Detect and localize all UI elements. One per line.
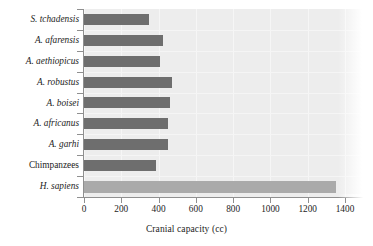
y-axis-label: A. garhi — [49, 139, 79, 149]
y-axis-label: A. afarensis — [35, 35, 79, 45]
x-axis-tick — [233, 198, 234, 203]
y-axis-tick — [77, 93, 83, 94]
y-axis-tick — [77, 197, 83, 198]
bar-row — [84, 113, 364, 134]
bar-a-afarensis — [84, 35, 163, 46]
bar-a-boisei — [84, 97, 170, 108]
y-axis-label: S. tchadensis — [30, 14, 79, 24]
y-axis-tick — [77, 113, 83, 114]
bar-a-aethiopicus — [84, 56, 160, 67]
bar-h-sapiens — [84, 181, 336, 193]
cranial-capacity-bar-chart: S. tchadensisA. afarensisA. aethiopicusA… — [0, 0, 373, 246]
x-axis-title: Cranial capacity (cc) — [0, 224, 373, 234]
bar-chimpanzees — [84, 160, 156, 171]
bar-a-robustus — [84, 77, 172, 88]
y-axis-label: Chimpanzees — [29, 160, 79, 170]
x-axis-tick — [270, 198, 271, 203]
bar-row — [84, 134, 364, 155]
y-axis-tick — [77, 30, 83, 31]
bar-a-garhi — [84, 139, 168, 150]
x-axis-tick — [308, 198, 309, 203]
x-axis-tick — [159, 198, 160, 203]
x-axis-tick — [84, 198, 85, 203]
y-axis-tick — [77, 176, 83, 177]
y-axis-tick — [77, 134, 83, 135]
x-axis-tick — [196, 198, 197, 203]
y-axis-label: A. robustus — [37, 77, 79, 87]
y-axis-label: A. boisei — [46, 98, 79, 108]
bar-row — [84, 93, 364, 114]
x-axis-line — [83, 197, 364, 198]
y-axis-label: A. africanus — [34, 118, 79, 128]
y-axis-tick — [77, 72, 83, 73]
bar-a-africanus — [84, 118, 168, 129]
y-axis-label: H. sapiens — [40, 181, 79, 191]
x-axis-tick-label: 800 — [213, 204, 253, 215]
x-axis-tick-label: 200 — [101, 204, 141, 215]
y-axis-tick — [77, 51, 83, 52]
x-axis-tick-label: 0 — [64, 204, 104, 215]
x-axis-edge-fade — [338, 194, 368, 202]
y-axis-line — [83, 9, 84, 198]
y-axis-tick — [77, 9, 83, 10]
bar-row — [84, 176, 364, 197]
bar-row — [84, 30, 364, 51]
x-axis-tick-label: 600 — [176, 204, 216, 215]
x-axis-tick — [345, 198, 346, 203]
plot-area — [84, 9, 364, 197]
x-axis-tick-label: 1200 — [288, 204, 328, 215]
y-axis-tick — [77, 155, 83, 156]
x-axis-tick-label: 1400 — [325, 204, 365, 215]
y-axis-label: A. aethiopicus — [26, 56, 79, 66]
x-axis-tick-label: 400 — [139, 204, 179, 215]
bar-row — [84, 51, 364, 72]
x-axis-tick — [121, 198, 122, 203]
bar-row — [84, 72, 364, 93]
x-axis-tick-label: 1000 — [250, 204, 290, 215]
bar-s-tchadensis — [84, 14, 149, 25]
bar-row — [84, 9, 364, 30]
bar-row — [84, 155, 364, 176]
